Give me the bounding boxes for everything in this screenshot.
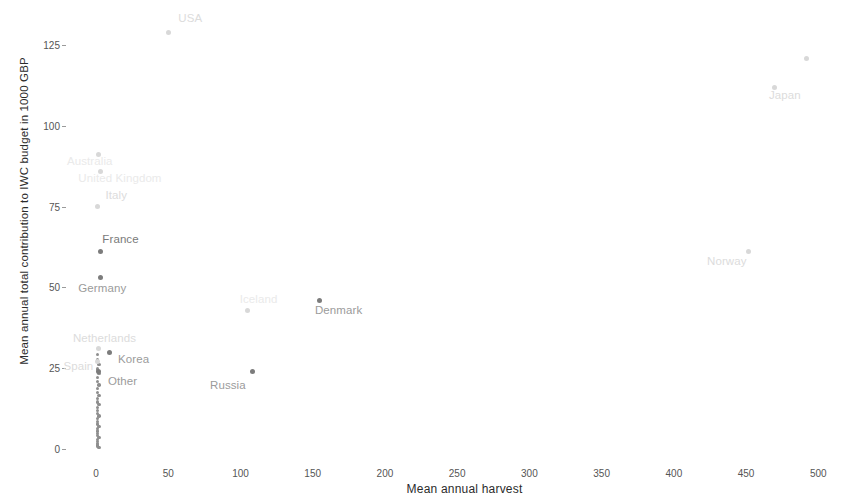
point-label-denmark: Denmark <box>315 304 362 316</box>
data-point-usa <box>166 30 171 35</box>
point-label-spain: Spain <box>63 360 93 372</box>
data-point <box>804 56 809 61</box>
point-label-germany: Germany <box>78 282 126 294</box>
y-axis-tick-label: 0 <box>14 444 60 455</box>
point-label-australia: Australia <box>67 155 113 167</box>
point-label-japan: Japan <box>769 89 801 101</box>
y-axis-tick-label: 100 <box>14 120 60 131</box>
point-label-norway: Norway <box>707 255 747 267</box>
scatter-plot-figure: Mean annual total contribution to IWC bu… <box>0 0 853 502</box>
data-point-netherlands <box>96 346 101 351</box>
y-axis-tick-mark <box>62 45 66 46</box>
x-axis-tick-label: 450 <box>716 468 776 479</box>
point-label-netherlands: Netherlands <box>73 332 136 344</box>
x-axis-tick-label: 100 <box>210 468 270 479</box>
point-label-other: Other <box>108 375 137 387</box>
data-point-russia <box>250 369 255 374</box>
x-axis-tick-label: 50 <box>138 468 198 479</box>
y-axis-tick-label: 125 <box>14 40 60 51</box>
x-axis-tick-label: 400 <box>644 468 704 479</box>
data-point-iceland <box>245 308 250 313</box>
y-axis-tick-label: 50 <box>14 282 60 293</box>
point-label-russia: Russia <box>210 379 246 391</box>
x-axis-tick-label: 250 <box>427 468 487 479</box>
y-axis-tick-mark <box>62 207 66 208</box>
point-label-usa: USA <box>178 12 202 24</box>
point-label-italy: Italy <box>105 189 127 201</box>
data-point <box>96 353 99 356</box>
y-axis-tick-label: 25 <box>14 363 60 374</box>
x-axis-tick-label: 0 <box>66 468 126 479</box>
x-axis-tick-label: 300 <box>499 468 559 479</box>
y-axis-tick-mark <box>62 126 66 127</box>
data-point-germany <box>98 275 103 280</box>
data-point-denmark <box>317 298 322 303</box>
data-point-italy <box>95 204 100 209</box>
y-axis-tick-mark <box>62 287 66 288</box>
data-point-korea <box>107 350 112 355</box>
x-axis-tick-label: 200 <box>355 468 415 479</box>
data-point <box>96 376 99 379</box>
point-label-france: France <box>102 233 138 245</box>
x-axis-title-text: Mean annual harvest <box>407 482 523 496</box>
point-label-united-kingdom: United Kingdom <box>78 172 161 184</box>
data-point-other <box>96 369 101 374</box>
data-point-france <box>98 249 103 254</box>
x-axis-tick-label: 500 <box>788 468 848 479</box>
data-point-norway <box>746 249 751 254</box>
y-axis-tick-label: 75 <box>14 201 60 212</box>
x-axis-tick-label: 150 <box>283 468 343 479</box>
x-axis-tick-label: 350 <box>572 468 632 479</box>
data-point <box>96 387 99 390</box>
point-label-iceland: Iceland <box>240 293 278 305</box>
y-axis-tick-mark <box>62 449 66 450</box>
x-axis-title: Mean annual harvest <box>0 482 853 496</box>
point-label-korea: Korea <box>118 353 149 365</box>
data-point <box>97 446 100 449</box>
